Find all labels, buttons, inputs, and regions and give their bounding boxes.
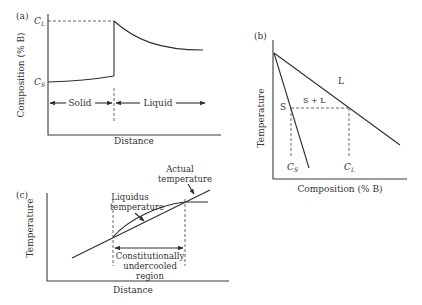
panel-b-liquidus-line bbox=[274, 53, 400, 145]
panel-c-region-label-3: region bbox=[136, 271, 164, 281]
panel-c-region-label-2: undercooled bbox=[123, 261, 177, 271]
panel-c-actual-label-1: Actual bbox=[165, 164, 194, 174]
panel-a-liquid-label: Liquid bbox=[143, 98, 172, 108]
panel-b-liquid-label: L bbox=[338, 76, 344, 86]
diagram-canvas: (a) Composition (% B) Distance CL CS Sol… bbox=[0, 0, 422, 305]
panel-a-cs-label: CS bbox=[34, 77, 45, 88]
panel-b-axes bbox=[273, 40, 407, 179]
panel-a-cl-label: CL bbox=[34, 16, 45, 27]
panel-a-solid-curve bbox=[48, 76, 114, 82]
panel-a-liquid-curve bbox=[114, 21, 203, 50]
panel-b-ylabel: Temperature bbox=[256, 89, 266, 148]
panel-a-solid-label: Solid bbox=[68, 98, 91, 108]
panel-a-tag: (a) bbox=[16, 11, 28, 21]
panel-c-region-label-1: Constitutionally bbox=[116, 251, 185, 261]
panel-b-tag: (b) bbox=[254, 31, 267, 41]
panel-c-ylabel: Temperature bbox=[25, 199, 35, 258]
panel-a-axes bbox=[48, 14, 221, 135]
panel-a: (a) Composition (% B) Distance CL CS Sol… bbox=[16, 11, 221, 146]
panel-c-actual-label-2: temperature bbox=[158, 174, 212, 184]
panel-b: (b) Temperature Composition (% B) S S + … bbox=[254, 31, 407, 194]
panel-b-xlabel: Composition (% B) bbox=[297, 184, 382, 194]
panel-c-liquidus-label-2: temperature bbox=[110, 202, 164, 212]
panel-b-cs-label: CS bbox=[287, 162, 298, 173]
panel-a-xlabel: Distance bbox=[114, 136, 154, 146]
panel-c-liquidus-pointer bbox=[135, 213, 144, 221]
panel-a-ylabel: Composition (% B) bbox=[16, 32, 26, 117]
panel-b-solid-label: S bbox=[280, 102, 286, 112]
panel-c-actual-pointer bbox=[188, 184, 194, 194]
panel-c-xlabel: Distance bbox=[113, 285, 153, 295]
panel-c-liquidus-label-1: Liquidus bbox=[111, 192, 148, 202]
panel-c-tag: (c) bbox=[16, 190, 28, 200]
panel-c: (c) Temperature Distance Constitutionall… bbox=[16, 164, 229, 295]
panel-b-cl-label: CL bbox=[344, 162, 355, 173]
panel-b-two-phase-label: S + L bbox=[303, 96, 326, 105]
